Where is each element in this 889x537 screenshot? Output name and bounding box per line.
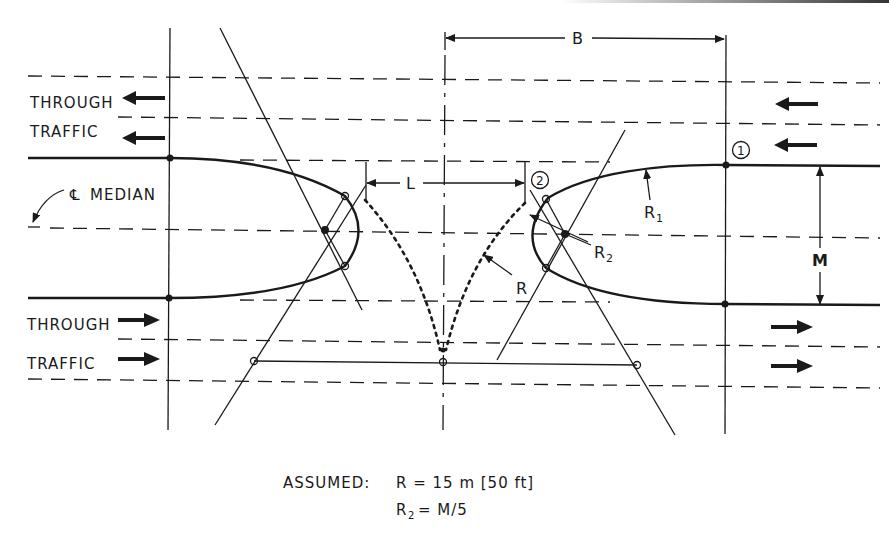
median-opening-diagram: B L M R R 1 R 2 1 2 THROUGH TRAFF bbox=[0, 0, 889, 537]
assumed-line2-rhs: = M/5 bbox=[418, 501, 468, 519]
dimension-m: M bbox=[812, 167, 828, 304]
control-radius-arcs bbox=[365, 200, 525, 350]
centerline-symbol-icon: ℄ bbox=[69, 186, 81, 204]
arrow-right-icon bbox=[118, 313, 160, 327]
point-2-marker: 2 bbox=[532, 172, 549, 189]
radius-pointers bbox=[484, 170, 650, 275]
assumed-prefix: ASSUMED: bbox=[283, 474, 370, 492]
arrow-right-icon bbox=[118, 352, 160, 366]
svg-text:1: 1 bbox=[656, 212, 663, 225]
dim-m-label: M bbox=[812, 251, 828, 270]
reference-verticals bbox=[168, 28, 726, 434]
through-traffic-top-line2: TRAFFIC bbox=[29, 123, 98, 141]
dimension-l: L bbox=[366, 162, 525, 202]
traffic-arrows bbox=[118, 91, 818, 373]
arrow-left-icon bbox=[774, 138, 817, 152]
lane-lines bbox=[28, 76, 880, 388]
svg-text:2: 2 bbox=[536, 174, 544, 188]
dim-b-label: B bbox=[572, 29, 583, 48]
assumptions-note: ASSUMED: R = 15 m [50 ft] R 2 = M/5 bbox=[283, 474, 534, 521]
centerline-median-label: MEDIAN bbox=[90, 186, 156, 204]
svg-text:R: R bbox=[644, 203, 655, 222]
svg-text:1: 1 bbox=[737, 144, 745, 158]
arrow-right-icon bbox=[771, 320, 813, 334]
assumed-line1: R = 15 m [50 ft] bbox=[396, 474, 534, 492]
arrow-left-icon bbox=[122, 91, 165, 105]
dimension-b: B bbox=[445, 29, 724, 50]
arrow-right-icon bbox=[771, 359, 813, 373]
construction-lines bbox=[215, 28, 675, 435]
point-1-marker: 1 bbox=[733, 142, 750, 159]
radius-r2-label: R 2 bbox=[594, 243, 613, 265]
radius-r1-label: R 1 bbox=[644, 203, 663, 225]
assumed-line2-lhs: R bbox=[396, 501, 407, 519]
dim-l-label: L bbox=[406, 174, 415, 193]
through-traffic-bottom-line1: THROUGH bbox=[26, 316, 111, 334]
arrow-left-icon bbox=[122, 131, 165, 145]
median-edges bbox=[28, 158, 880, 305]
arrow-left-icon bbox=[775, 97, 818, 111]
svg-text:2: 2 bbox=[606, 252, 613, 265]
construction-points bbox=[166, 155, 730, 369]
assumed-line2-sub: 2 bbox=[408, 510, 414, 521]
radius-r-label: R bbox=[516, 279, 527, 298]
svg-text:R: R bbox=[594, 243, 605, 262]
centerline-median-callout: ℄ MEDIAN bbox=[28, 186, 156, 227]
through-traffic-top-line1: THROUGH bbox=[29, 94, 114, 112]
median-centerline bbox=[50, 228, 880, 238]
through-traffic-bottom-line2: TRAFFIC bbox=[26, 355, 95, 373]
